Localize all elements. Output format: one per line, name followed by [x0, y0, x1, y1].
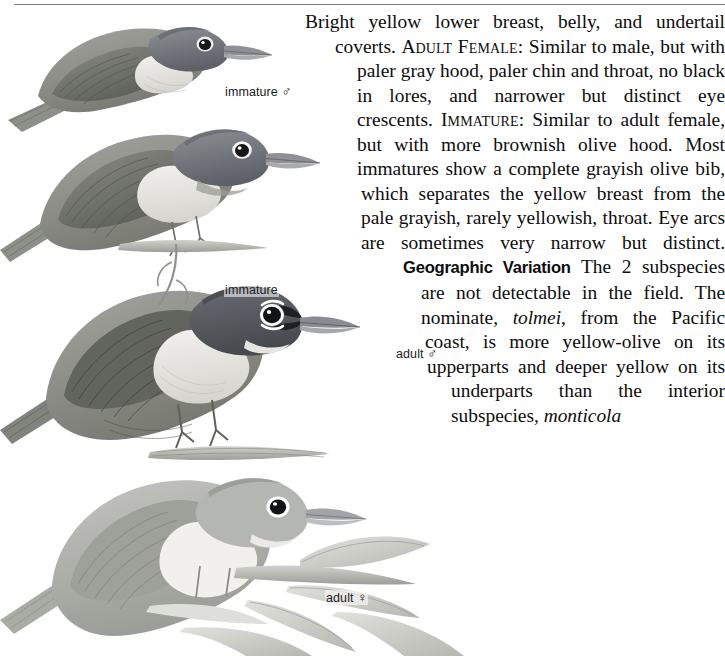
bird-immature-male	[8, 27, 272, 132]
label-immature: Immature:	[441, 109, 524, 130]
subspecies-monticola: monticola	[544, 405, 622, 426]
caption-immature-male: immature ♂	[224, 84, 293, 99]
subspecies-tolmei: tolmei	[513, 307, 561, 328]
heading-geographic-variation: Geographic Variation	[403, 258, 571, 277]
species-account-text: Bright yellow lower breast, belly, and u…	[305, 10, 725, 428]
male-symbol-icon: ♂	[281, 84, 291, 99]
caption-immature: immature	[224, 283, 279, 297]
label-adult-female: Adult Female:	[401, 36, 523, 57]
twig-immature	[158, 244, 188, 306]
caption-immature-text: immature	[225, 283, 278, 297]
page-top-rule	[14, 4, 725, 5]
field-guide-page: immature ♂ immature adult ♂ adult ♀	[0, 0, 725, 656]
body-text-column: Bright yellow lower breast, belly, and u…	[305, 10, 725, 656]
text-immature-desc: Similar to adult female, but with more b…	[357, 109, 725, 253]
caption-immature-male-text: immature	[225, 85, 278, 99]
bird-immature	[0, 129, 320, 262]
